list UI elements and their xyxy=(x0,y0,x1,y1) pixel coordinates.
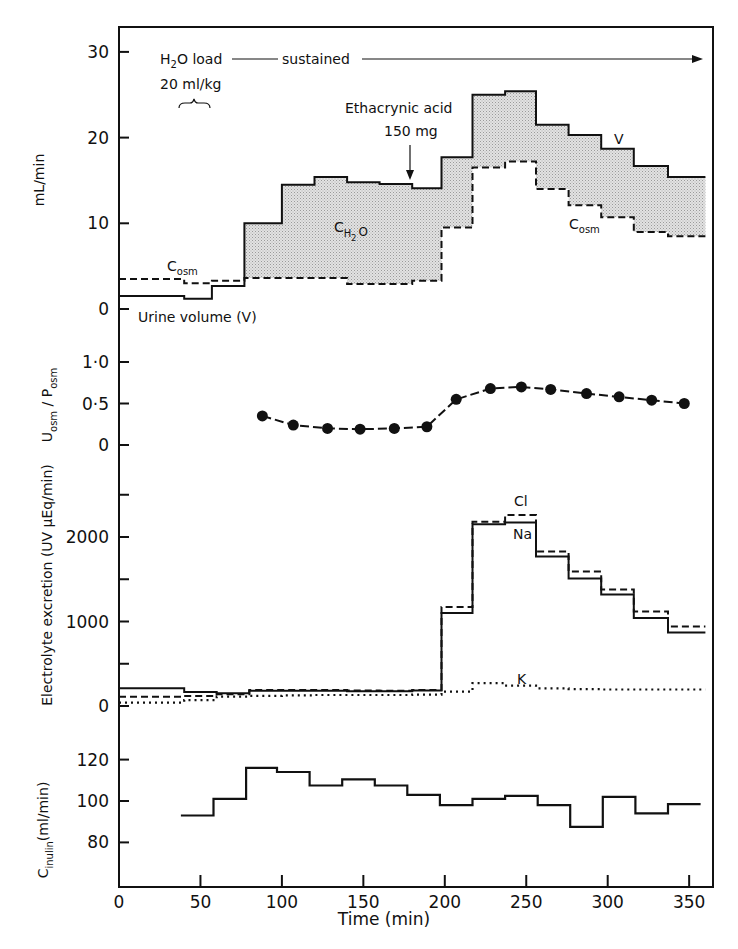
electrolyte-y-tick-label: 0 xyxy=(98,696,109,716)
y-label-volume: mL/min xyxy=(31,154,47,207)
x-axis-title: Time (min) xyxy=(337,909,430,929)
series-cinulin xyxy=(181,768,701,827)
h2o-load-label: H2O load xyxy=(160,51,222,70)
drug-label: Ethacrynic acid xyxy=(345,100,453,116)
drug-arrow-head xyxy=(406,170,414,180)
cosm-label-left: Cosm xyxy=(167,258,198,277)
osm-ratio-point xyxy=(679,398,690,409)
dose-bracket xyxy=(179,99,210,108)
y-label-electrolyte: Electrolyte excretion (UV μEq/min) xyxy=(39,464,55,706)
series-na xyxy=(119,523,705,694)
osm-ratio-point xyxy=(485,383,496,394)
osm-ratio-point xyxy=(581,388,592,399)
y-label-osm: Uosm / Posm xyxy=(39,368,59,442)
sustained-label: sustained xyxy=(282,51,350,67)
osm-ratio-point xyxy=(288,420,299,431)
inulin-y-tick-label: 120 xyxy=(77,750,109,770)
osm-ratio-point xyxy=(355,424,366,435)
osmolality-panel: 00·51·0 xyxy=(82,352,690,455)
volume-y-tick-label: 0 xyxy=(98,299,109,319)
inulin-y-tick-label: 100 xyxy=(77,791,109,811)
osm-ratio-point xyxy=(322,423,333,434)
x-tick-label: 350 xyxy=(673,892,705,912)
x-tick-label: 250 xyxy=(510,892,542,912)
cl-label: Cl xyxy=(514,493,528,509)
osm-ratio-point xyxy=(516,381,527,392)
x-axis: 050100150200250300350 xyxy=(114,875,706,912)
renal-function-chart: 0102030 00·51·0 010002000 80100120 05010… xyxy=(0,0,738,949)
k-label: K xyxy=(517,671,527,687)
osm-ratio-point xyxy=(451,394,462,405)
electrolyte-panel: 010002000 xyxy=(66,495,706,716)
ch2o-shaded-area xyxy=(244,91,705,284)
series-cl xyxy=(119,515,705,697)
x-tick-label: 100 xyxy=(266,892,298,912)
osm-ratio-point xyxy=(421,421,432,432)
inulin-y-tick-label: 80 xyxy=(87,832,109,852)
osm-y-tick-label: 0 xyxy=(98,435,109,455)
v-label: V xyxy=(614,131,624,147)
drug-dose-label: 150 mg xyxy=(384,123,438,139)
volume-y-tick-label: 20 xyxy=(87,128,109,148)
cosm-label-right: Cosm xyxy=(569,216,600,235)
sustained-arrow-head xyxy=(692,55,703,63)
na-label: Na xyxy=(513,526,532,542)
x-tick-label: 0 xyxy=(114,892,125,912)
electrolyte-y-tick-label: 1000 xyxy=(66,612,109,632)
volume-y-tick-label: 10 xyxy=(87,213,109,233)
osm-ratio-point xyxy=(614,391,625,402)
osm-ratio-point xyxy=(389,423,400,434)
osm-ratio-point xyxy=(257,410,268,421)
electrolyte-y-tick-label: 2000 xyxy=(66,527,109,547)
osm-y-tick-label: 1·0 xyxy=(82,352,109,372)
osm-ratio-point xyxy=(646,395,657,406)
volume-y-tick-label: 30 xyxy=(87,42,109,62)
inulin-panel: 80100120 xyxy=(77,750,701,853)
dose-label: 20 ml/kg xyxy=(160,76,222,92)
x-tick-label: 200 xyxy=(429,892,461,912)
y-label-inulin: Cinulin(ml/min) xyxy=(35,782,55,879)
osm-y-tick-label: 0·5 xyxy=(82,394,109,414)
x-tick-label: 50 xyxy=(190,892,212,912)
osm-ratio-point xyxy=(545,384,556,395)
x-tick-label: 300 xyxy=(591,892,623,912)
urine-volume-label: Urine volume (V) xyxy=(138,309,257,325)
